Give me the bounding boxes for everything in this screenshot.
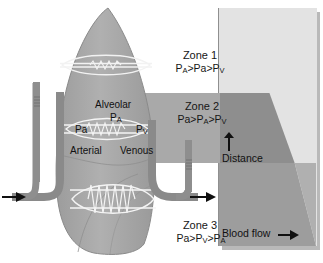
- zone3-formula-text: Pa>PV>PA: [176, 232, 225, 244]
- vessel-system: [0, 0, 323, 263]
- alveolar-label: Alveolar: [95, 99, 131, 111]
- arterial-pressure-label: Pa: [75, 124, 87, 136]
- distance-label: Distance: [222, 152, 263, 164]
- alveolar-pressure-label: PA: [110, 112, 122, 124]
- right-arrow-icon: [278, 229, 300, 241]
- zone1-formula-text: PA>Pa>PV: [175, 62, 224, 74]
- arterial-label: Arterial: [70, 145, 102, 157]
- zone1-formula: PA>Pa>PV: [163, 62, 237, 75]
- venous-pressure-label: PV: [136, 124, 148, 136]
- venous-riser: [176, 190, 188, 197]
- figure-canvas: Zone 1 PA>Pa>PV Zone 2 Pa>PA>PV Zone 3 P…: [0, 0, 323, 263]
- blood-flow-label: Blood flow: [222, 227, 270, 239]
- zone1-title: Zone 1: [168, 49, 232, 62]
- zone2-title: Zone 2: [170, 100, 234, 113]
- up-arrow-icon: [222, 132, 236, 152]
- venous-label: Venous: [120, 145, 153, 157]
- zone2-formula: Pa>PA>PV: [165, 113, 239, 126]
- zone2-formula-text: Pa>PA>PV: [177, 113, 226, 125]
